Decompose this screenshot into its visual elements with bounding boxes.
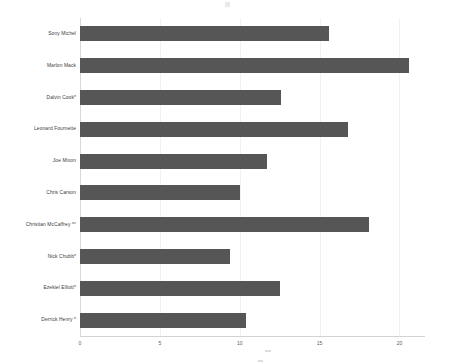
scan-speck (265, 350, 271, 352)
category-label: Sony Michel (0, 31, 76, 37)
x-tick-label: 5 (158, 340, 161, 347)
bar[interactable] (80, 58, 409, 73)
category-label: Ezekiel Elliott* (0, 285, 76, 291)
bar-row (80, 50, 425, 82)
bar-row (80, 241, 425, 273)
x-axis-line (80, 336, 425, 337)
category-label: Nick Chubb* (0, 254, 76, 260)
x-tick-label: 20 (397, 340, 403, 347)
bar-row (80, 82, 425, 114)
bar-chart: Sony MichelMarlon MackDalvin Cook*Leonar… (0, 0, 451, 364)
x-tick-label: 0 (79, 340, 82, 347)
scan-speck (258, 360, 263, 362)
bar[interactable] (80, 249, 230, 264)
x-tick-label: 10 (237, 340, 243, 347)
bar[interactable] (80, 90, 281, 105)
x-tick-label: 15 (317, 340, 323, 347)
scan-artifact-mark (225, 2, 230, 7)
category-axis-labels: Sony MichelMarlon MackDalvin Cook*Leonar… (0, 18, 76, 336)
bar[interactable] (80, 217, 369, 232)
bar-row (80, 177, 425, 209)
category-label: Christian McCaffrey *° (0, 222, 76, 228)
x-axis-ticks: 05101520 (80, 340, 425, 352)
plot-area (80, 18, 425, 336)
category-label: Chris Carson (0, 190, 76, 196)
bar-row (80, 18, 425, 50)
category-label: Derrick Henry * (0, 317, 76, 323)
category-label: Marlon Mack (0, 63, 76, 69)
bar[interactable] (80, 313, 246, 328)
bar-row (80, 304, 425, 336)
category-label: Leonard Fournette (0, 126, 76, 132)
bar-rows (80, 18, 425, 336)
bar[interactable] (80, 281, 280, 296)
category-label: Joe Mixon (0, 158, 76, 164)
bar-row (80, 113, 425, 145)
bar[interactable] (80, 122, 348, 137)
bar-row (80, 145, 425, 177)
bar[interactable] (80, 26, 329, 41)
bar-row (80, 209, 425, 241)
bar[interactable] (80, 154, 267, 169)
category-label: Dalvin Cook* (0, 95, 76, 101)
bar[interactable] (80, 185, 240, 200)
bar-row (80, 272, 425, 304)
